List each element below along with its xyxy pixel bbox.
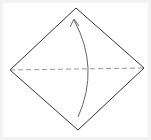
diagram-frame <box>0 0 151 140</box>
origami-diagram <box>0 0 151 140</box>
